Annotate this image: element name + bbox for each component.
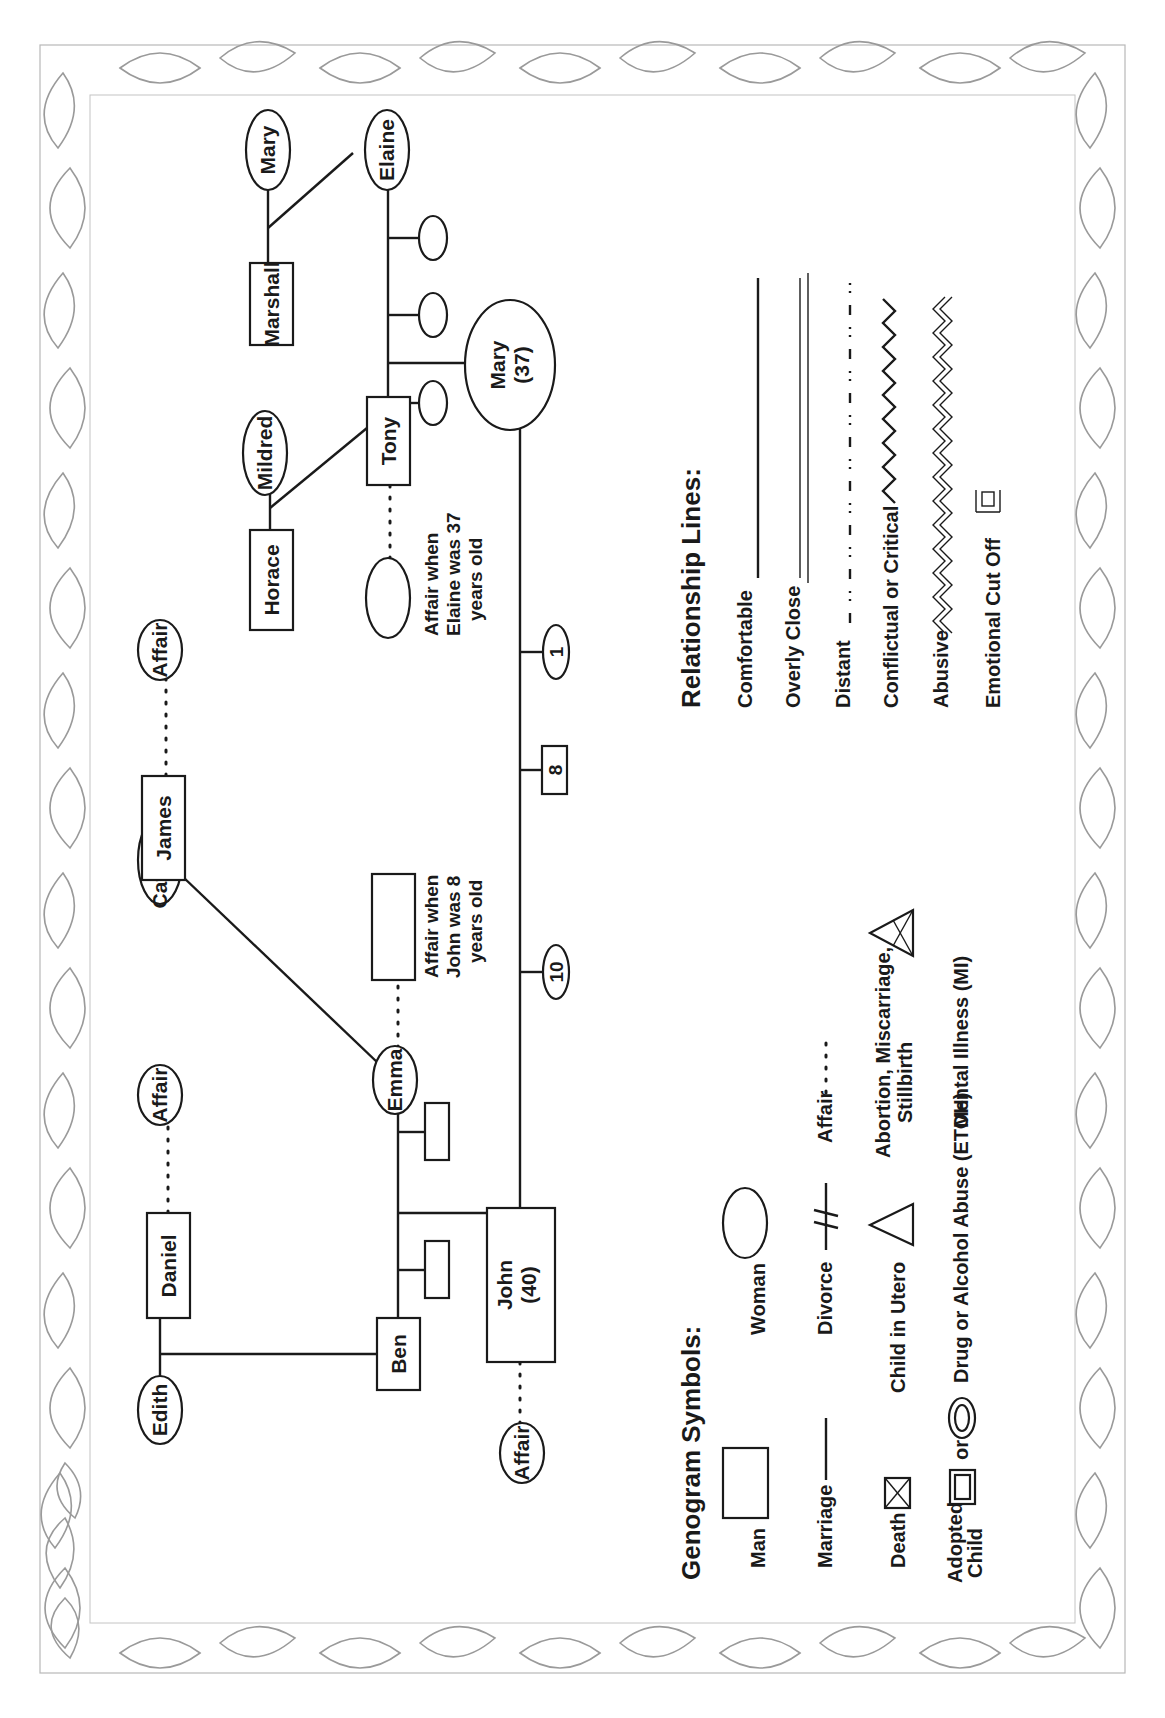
child-in-utero-icon xyxy=(870,1204,913,1245)
person-name: Tony xyxy=(377,416,400,465)
person-mildred[interactable]: Mildred xyxy=(243,411,287,495)
child-tony-elaine-1[interactable] xyxy=(419,381,447,425)
person-mary-elder[interactable]: Mary xyxy=(246,110,290,190)
affair-note-line2: Elaine was 37 xyxy=(443,512,464,636)
adopted-circle-icon xyxy=(949,1398,975,1438)
person-affair-emma[interactable]: Affair when John was 8 years old xyxy=(372,874,486,980)
person-mary-37[interactable]: Mary (37) xyxy=(465,300,555,430)
legend-cutoff-label: Emotional Cut Off xyxy=(982,538,1004,708)
genogram-canvas: Edith Daniel Affair Ben Catherine James … xyxy=(0,0,1165,1718)
person-name: Ben xyxy=(387,1334,410,1374)
legend-drug-label: Drug or Alcohol Abuse (ETOH) xyxy=(950,1093,972,1383)
affair-note-line3: years old xyxy=(465,538,486,621)
person-ben[interactable]: Ben xyxy=(377,1318,420,1390)
child-tony-elaine-4[interactable] xyxy=(419,216,447,260)
person-john[interactable]: John (40) xyxy=(487,1208,555,1362)
child-john-mary-8[interactable]: 8 xyxy=(542,746,567,794)
legend-marriage-label: Marriage xyxy=(814,1485,836,1568)
man-symbol-icon xyxy=(723,1448,768,1518)
abusive-line-icon xyxy=(933,297,952,633)
person-name: Affair xyxy=(148,1068,171,1123)
legend-affair-label: Affair xyxy=(814,1091,836,1143)
person-affair-tony[interactable]: Affair when Elaine was 37 years old xyxy=(366,512,486,638)
person-horace[interactable]: Horace xyxy=(250,530,293,630)
child-ben-emma-1[interactable] xyxy=(425,1241,449,1298)
legend-divorce-label: Divorce xyxy=(814,1262,836,1335)
legend-abortion-label-2: Stillbirth xyxy=(894,1042,916,1123)
person-edith[interactable]: Edith xyxy=(138,1376,182,1444)
legend-child-in-utero-label: Child in Utero xyxy=(887,1262,909,1393)
person-emma[interactable]: Emma xyxy=(373,1046,417,1114)
person-name: James xyxy=(152,795,175,860)
death-symbol-icon xyxy=(885,1478,910,1508)
legend-or-label: or xyxy=(950,1440,972,1460)
legend-adopted-label-1: Adopted xyxy=(944,1502,966,1583)
person-affair-john[interactable]: Affair xyxy=(500,1423,544,1483)
legend-abusive-label: Abusive xyxy=(930,630,952,708)
affair-note-line3: years old xyxy=(465,880,486,963)
person-age: (37) xyxy=(510,346,533,383)
person-tony[interactable]: Tony xyxy=(367,397,410,485)
legend-distant-label: Distant xyxy=(832,640,854,708)
legend-death-label: Death xyxy=(887,1512,909,1568)
person-marshall[interactable]: Marshall xyxy=(250,261,293,346)
legend-woman-label: Woman xyxy=(747,1263,769,1335)
person-name: Horace xyxy=(260,544,283,615)
person-affair-daniel[interactable]: Affair xyxy=(138,1065,182,1125)
legend-mental-label: Mental Illness (MI) xyxy=(950,956,972,1128)
person-name: Mildred xyxy=(253,416,276,491)
affair-note-line2: John was 8 xyxy=(443,876,464,978)
legend-adopted-label-2: Child xyxy=(964,1528,986,1578)
person-daniel[interactable]: Daniel xyxy=(147,1213,190,1318)
person-name: John xyxy=(493,1260,516,1310)
woman-symbol-icon xyxy=(723,1188,767,1258)
person-name: Affair xyxy=(148,623,171,678)
legend-overly-close-label: Overly Close xyxy=(782,586,804,708)
genogram-stage: Edith Daniel Affair Ben Catherine James … xyxy=(0,0,1165,1718)
child-ben-emma-3[interactable] xyxy=(425,1103,449,1160)
divorce-line-icon xyxy=(814,1183,838,1250)
legend-lines-title: Relationship Lines: xyxy=(676,468,706,708)
child-age: 10 xyxy=(546,961,567,982)
legend-comfortable-label: Comfortable xyxy=(734,590,756,708)
legend-man-label: Man xyxy=(747,1528,769,1568)
conflictual-line-icon xyxy=(883,299,895,503)
person-elaine[interactable]: Elaine xyxy=(365,110,409,190)
child-tony-elaine-3[interactable] xyxy=(419,293,447,337)
person-name: Emma xyxy=(383,1048,406,1111)
affair-note-line1: Affair when xyxy=(421,875,442,978)
overly-close-line-icon xyxy=(800,273,808,583)
person-name: Marshall xyxy=(260,261,283,346)
person-affair-james[interactable]: Affair xyxy=(138,620,182,680)
person-james[interactable]: James xyxy=(142,776,185,880)
legend-relationship-lines: Relationship Lines: Comfortable Overly C… xyxy=(676,273,1004,708)
legend-genogram-symbols: Genogram Symbols: Man Woman Marriage Div… xyxy=(676,910,986,1583)
person-name: Daniel xyxy=(157,1234,180,1297)
child-age: 8 xyxy=(545,765,566,776)
person-name: Mary xyxy=(486,340,509,389)
person-name: Edith xyxy=(148,1384,171,1437)
adopted-square-icon xyxy=(950,1470,975,1504)
emotional-cutoff-icon xyxy=(976,490,1000,512)
child-john-mary-1[interactable]: 1 xyxy=(543,625,569,679)
person-name: Affair xyxy=(510,1426,533,1481)
legend-abortion-label-1: Abortion, Miscarriage, xyxy=(872,947,894,1158)
legend-symbols-title: Genogram Symbols: xyxy=(676,1326,706,1580)
child-age: 1 xyxy=(546,646,567,657)
person-name: Elaine xyxy=(375,119,398,181)
person-name: Mary xyxy=(256,125,279,174)
affair-note-line1: Affair when xyxy=(421,533,442,636)
legend-conflictual-label: Conflictual or Critical xyxy=(880,506,902,708)
child-john-mary-10[interactable]: 10 xyxy=(543,945,569,999)
person-age: (40) xyxy=(517,1266,540,1303)
